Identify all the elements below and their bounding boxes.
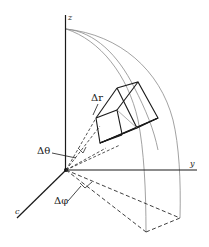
x-axis — [17, 170, 66, 218]
inner-arc — [66, 29, 146, 232]
delta-theta-label: Δθ — [37, 146, 50, 156]
dashed-rays-phi — [66, 170, 180, 232]
label-leaders — [52, 104, 98, 201]
meridian-arcs — [66, 29, 180, 232]
outer-arc — [66, 29, 180, 218]
dphi-leader — [68, 186, 81, 201]
axes — [17, 15, 197, 218]
x-axis-label: c — [15, 208, 19, 216]
delta-r-label: Δr — [91, 93, 103, 103]
outer-box-arc — [66, 29, 158, 150]
delta-phi-label: Δφ — [54, 196, 68, 206]
volume-element-box — [96, 82, 158, 143]
dphi-arc-marker — [80, 182, 92, 188]
y-axis-label: y — [190, 160, 195, 168]
dtheta-leader — [52, 153, 76, 158]
dr-leader — [93, 104, 98, 115]
z-axis-label: z — [68, 14, 72, 22]
spherical-volume-element-diagram: z y c Δr Δθ Δφ — [0, 0, 209, 247]
dashed-rays-theta — [66, 118, 120, 170]
